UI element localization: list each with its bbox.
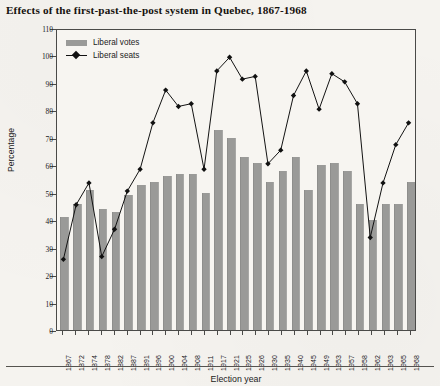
seats-marker-1887 — [125, 188, 130, 193]
x-tick-label-1921: 1921 — [233, 355, 240, 371]
x-tick-label-1926: 1926 — [258, 355, 265, 371]
x-tick-1958 — [358, 331, 359, 335]
seats-marker-1867 — [61, 257, 66, 262]
x-tick-1921 — [230, 331, 231, 335]
x-tick-label-1896: 1896 — [155, 355, 162, 371]
x-tick-1872 — [75, 331, 76, 335]
line-marker-icon — [66, 52, 87, 59]
x-tick-1940 — [294, 331, 295, 335]
seats-marker-1965 — [393, 142, 398, 147]
x-tick-1887 — [127, 331, 128, 335]
x-tick-label-1908: 1908 — [194, 355, 201, 371]
chart-figure: 0102030405060708090100110 Percentage 186… — [0, 22, 440, 362]
x-tick-label-1925: 1925 — [245, 355, 252, 371]
x-tick-label-1872: 1872 — [78, 355, 85, 371]
seats-marker-1926 — [252, 74, 257, 79]
x-tick-1963 — [384, 331, 385, 335]
x-tick-1891 — [140, 331, 141, 335]
seats-marker-1957 — [342, 79, 347, 84]
x-tick-1965 — [397, 331, 398, 335]
x-tick-1945 — [307, 331, 308, 335]
line-series-liberal-seats — [57, 30, 415, 330]
x-tick-label-1935: 1935 — [284, 355, 291, 371]
legend-item-liberal-votes: Liberal votes — [66, 36, 139, 49]
x-tick-label-1882: 1882 — [117, 355, 124, 371]
seats-marker-1968 — [406, 120, 411, 125]
x-tick-label-1867: 1867 — [65, 355, 72, 371]
chart-legend: Liberal votes Liberal seats — [66, 36, 139, 62]
bar-swatch-icon — [66, 40, 87, 46]
x-tick-label-1917: 1917 — [220, 355, 227, 371]
seats-marker-1872 — [73, 202, 78, 207]
y-tick-label-60: 60 — [46, 162, 53, 171]
x-tick-label-1958: 1958 — [361, 355, 368, 371]
x-tick-1962 — [371, 331, 372, 335]
x-tick-label-1887: 1887 — [130, 355, 137, 371]
y-tick-label-50: 50 — [46, 189, 53, 198]
x-tick-label-1891: 1891 — [143, 355, 150, 371]
legend-item-liberal-seats: Liberal seats — [66, 49, 139, 62]
y-tick-label-30: 30 — [46, 244, 53, 253]
y-tick-label-100: 100 — [42, 52, 53, 61]
x-tick-1930 — [268, 331, 269, 335]
x-tick-1878 — [101, 331, 102, 335]
seats-marker-1896 — [150, 120, 155, 125]
seats-marker-1878 — [99, 254, 104, 259]
seats-marker-1925 — [240, 76, 245, 81]
x-tick-1925 — [242, 331, 243, 335]
y-tick-label-70: 70 — [46, 134, 53, 143]
seats-marker-1874 — [86, 180, 91, 185]
page-bleedthrough — [150, 370, 410, 382]
x-tick-1953 — [332, 331, 333, 335]
x-tick-1896 — [152, 331, 153, 335]
x-tick-label-1945: 1945 — [310, 355, 317, 371]
y-tick-label-10: 10 — [46, 299, 53, 308]
legend-label-seats: Liberal seats — [93, 51, 139, 60]
x-tick-label-1963: 1963 — [387, 355, 394, 371]
y-tick-label-90: 90 — [46, 79, 53, 88]
x-tick-label-1953: 1953 — [335, 355, 342, 371]
seats-marker-1882 — [112, 227, 117, 232]
plot-inner — [57, 30, 415, 330]
x-tick-1904 — [178, 331, 179, 335]
legend-label-votes: Liberal votes — [93, 38, 139, 47]
x-tick-label-1949: 1949 — [323, 355, 330, 371]
x-tick-label-1874: 1874 — [91, 355, 98, 371]
y-tick-label-80: 80 — [46, 107, 53, 116]
seats-marker-1911 — [201, 167, 206, 172]
footer-divider — [6, 366, 434, 367]
y-axis-title: Percentage — [6, 128, 16, 172]
plot-area — [56, 29, 416, 331]
x-tick-1926 — [255, 331, 256, 335]
x-tick-1935 — [281, 331, 282, 335]
x-tick-1874 — [88, 331, 89, 335]
x-tick-label-1900: 1900 — [168, 355, 175, 371]
y-tick-label-110: 110 — [42, 25, 53, 34]
seats-marker-1962 — [368, 235, 373, 240]
x-tick-label-1957: 1957 — [348, 355, 355, 371]
y-tick-label-20: 20 — [46, 272, 53, 281]
y-tick-label-40: 40 — [46, 217, 53, 226]
seats-marker-1908 — [189, 101, 194, 106]
x-tick-label-1968: 1968 — [413, 355, 420, 371]
x-tick-1867 — [62, 331, 63, 335]
x-tick-1908 — [191, 331, 192, 335]
seats-marker-1891 — [137, 167, 142, 172]
seats-marker-1963 — [380, 180, 385, 185]
x-tick-label-1878: 1878 — [104, 355, 111, 371]
x-tick-1917 — [217, 331, 218, 335]
x-tick-1882 — [114, 331, 115, 335]
seats-marker-1940 — [291, 93, 296, 98]
x-tick-1911 — [204, 331, 205, 335]
figure-title: Effects of the first-past-the-post syste… — [6, 4, 434, 16]
x-tick-1949 — [320, 331, 321, 335]
seats-marker-1958 — [355, 101, 360, 106]
seats-marker-1949 — [316, 106, 321, 111]
x-tick-label-1962: 1962 — [374, 355, 381, 371]
x-tick-1968 — [410, 331, 411, 335]
y-tick-label-0: 0 — [49, 327, 53, 336]
x-tick-1957 — [345, 331, 346, 335]
x-tick-label-1965: 1965 — [400, 355, 407, 371]
x-tick-label-1940: 1940 — [297, 355, 304, 371]
x-tick-label-1911: 1911 — [207, 356, 214, 371]
